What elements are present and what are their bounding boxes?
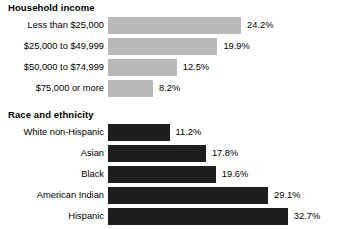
bar-category-label: White non-Hispanic (0, 124, 104, 141)
bar-category-label: Less than $25,000 (0, 17, 104, 34)
bar-value-label: 19.9% (223, 38, 249, 55)
bar-track: 12.5% (108, 59, 350, 76)
bar-value-label: 17.8% (212, 145, 238, 162)
bar (108, 80, 153, 97)
bar-row: $25,000 to $49,99919.9% (0, 38, 350, 59)
bar (108, 208, 288, 225)
bar (108, 166, 216, 183)
bar-value-label: 19.6% (222, 166, 248, 183)
bar-rows-race-and-ethnicity: White non-Hispanic11.2%Asian17.8%Black19… (0, 124, 350, 229)
bar-track: 8.2% (108, 80, 350, 97)
bar-track: 19.6% (108, 166, 350, 183)
grouped-bar-chart: Household income Less than $25,00024.2%$… (0, 0, 350, 229)
chart-panel-household-income: Household income Less than $25,00024.2%$… (0, 2, 350, 101)
bar-track: 17.8% (108, 145, 350, 162)
bar-row: American Indian29.1% (0, 187, 350, 208)
bar-track: 29.1% (108, 187, 350, 204)
panel-title-household-income: Household income (0, 2, 350, 14)
bar (108, 124, 170, 141)
bar-row: Black19.6% (0, 166, 350, 187)
panel-title-race-and-ethnicity: Race and ethnicity (0, 109, 350, 121)
bar-category-label: Hispanic (0, 208, 104, 225)
bar-track: 11.2% (108, 124, 350, 141)
bar-value-label: 12.5% (183, 59, 209, 76)
bar-category-label: $75,000 or more (0, 80, 104, 97)
bar-value-label: 32.7% (294, 208, 320, 225)
bar-category-label: American Indian (0, 187, 104, 204)
bar-value-label: 29.1% (274, 187, 300, 204)
bar-row: $75,000 or more8.2% (0, 80, 350, 101)
bar (108, 17, 241, 34)
bar-track: 24.2% (108, 17, 350, 34)
bar-value-label: 8.2% (159, 80, 180, 97)
bar-row: White non-Hispanic11.2% (0, 124, 350, 145)
bar-track: 32.7% (108, 208, 350, 225)
bar-row: Hispanic32.7% (0, 208, 350, 229)
bar-track: 19.9% (108, 38, 350, 55)
bar-value-label: 11.2% (176, 124, 202, 141)
bar-category-label: $50,000 to $74,999 (0, 59, 104, 76)
bar-row: $50,000 to $74,99912.5% (0, 59, 350, 80)
bar-category-label: Asian (0, 145, 104, 162)
chart-panel-race-and-ethnicity: Race and ethnicity White non-Hispanic11.… (0, 109, 350, 229)
bar (108, 145, 206, 162)
bar-row: Less than $25,00024.2% (0, 17, 350, 38)
bar-value-label: 24.2% (247, 17, 273, 34)
bar-category-label: Black (0, 166, 104, 183)
bar-rows-household-income: Less than $25,00024.2%$25,000 to $49,999… (0, 17, 350, 101)
bar-row: Asian17.8% (0, 145, 350, 166)
bar (108, 187, 268, 204)
bar (108, 59, 177, 76)
bar (108, 38, 217, 55)
bar-category-label: $25,000 to $49,999 (0, 38, 104, 55)
